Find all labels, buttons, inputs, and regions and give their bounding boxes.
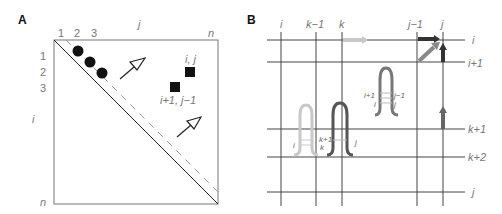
grid-columns xyxy=(281,32,443,206)
hp-center-i1: i+1 xyxy=(364,91,375,100)
hp-left-i: i xyxy=(293,141,295,150)
cell-label-i-j: i, j xyxy=(185,53,197,65)
hp-left-k: k xyxy=(320,143,325,152)
row-label-i1: i+1 xyxy=(468,57,483,69)
col-label-k: k xyxy=(339,18,345,30)
diag-dot-2 xyxy=(85,57,96,68)
diag-dot-1 xyxy=(73,46,84,57)
hairpin-light: i xyxy=(293,105,318,155)
panel-a-label: A xyxy=(18,13,27,27)
hairpin-center: i+1 i j−1 j xyxy=(364,68,405,115)
row-label-j: j xyxy=(470,186,475,198)
dark-arrow-up xyxy=(439,43,447,62)
col-label-j-1: j−1 xyxy=(406,18,423,30)
row-end-n: n xyxy=(40,196,46,208)
fill-direction-arrow-upper xyxy=(120,58,145,79)
row-tick-2: 2 xyxy=(40,66,46,78)
cell-i-j xyxy=(185,67,195,77)
row-label-i: i xyxy=(472,34,475,46)
diagonal-arrow xyxy=(419,42,440,61)
panel-b-label: B xyxy=(247,13,256,27)
row-label-k2: k+2 xyxy=(468,151,486,163)
col-label-k-1: k−1 xyxy=(306,18,324,30)
col-label-j: j xyxy=(439,18,444,30)
figure-canvas: A 1 2 3 j n 1 2 3 i n i, j i+1, j−1 B i … xyxy=(0,0,502,214)
col-label-i: i xyxy=(280,18,283,30)
row-tick-3: 3 xyxy=(40,82,46,94)
cell-label-i1-j1: i+1, j−1 xyxy=(160,94,196,106)
row-label-k1: k+1 xyxy=(468,123,486,135)
col-tick-2: 2 xyxy=(74,27,80,39)
fill-direction-arrow-lower xyxy=(177,117,201,137)
col-var-j: j xyxy=(136,18,141,30)
dark-arrow-right xyxy=(418,35,440,43)
grid-rows xyxy=(267,40,465,192)
hp-left-j: j xyxy=(354,138,357,147)
col-end-n: n xyxy=(208,27,214,39)
diag-dot-3 xyxy=(97,68,108,79)
row-var-i: i xyxy=(32,113,35,125)
hp-center-j1: j−1 xyxy=(393,91,405,100)
gray-arrow-up xyxy=(439,106,447,129)
light-arrow-right xyxy=(343,36,368,44)
col-tick-1: 1 xyxy=(58,27,64,39)
cell-i1-j1 xyxy=(170,82,180,92)
row-tick-1: 1 xyxy=(40,50,46,62)
hp-center-i: i xyxy=(374,100,376,109)
hp-center-j: j xyxy=(393,100,396,109)
col-tick-3: 3 xyxy=(91,27,97,39)
